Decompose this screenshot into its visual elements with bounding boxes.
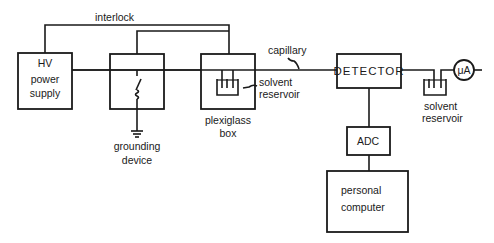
interlock-wiring <box>45 25 229 54</box>
adc-box: ADC <box>347 127 390 155</box>
pc-label-1: personal <box>341 184 381 196</box>
ammeter: μA <box>454 60 482 80</box>
detector-box: DETECTOR <box>333 54 404 88</box>
ground-icon <box>131 131 143 137</box>
capillary-label: capillary <box>268 44 307 56</box>
plexiglass-label-1: plexiglass <box>205 114 251 126</box>
interlock-label: interlock <box>95 11 135 23</box>
solvent-out-label-1: solvent <box>424 100 457 112</box>
resistor-coil-icon <box>136 90 139 99</box>
plexiglass-box: plexiglass box <box>201 54 255 139</box>
capillary-pointer-icon <box>288 58 299 69</box>
switch-icon <box>136 79 141 90</box>
hv-label-2: power <box>31 73 60 85</box>
solvent-out-label-2: reservoir <box>422 112 463 124</box>
hv-power-supply-box: HV power supply <box>18 53 72 109</box>
diagram-canvas: interlock HV power supply grounding devi… <box>0 0 494 243</box>
electrode-line <box>441 70 454 88</box>
solvent-in-label-1: solvent <box>259 76 292 88</box>
interlock-line-inner <box>137 31 229 54</box>
personal-computer-box: personal computer <box>327 171 408 232</box>
pc-label-2: computer <box>341 201 385 213</box>
grounding-label-1: grounding <box>114 140 161 152</box>
grounding-label-2: device <box>122 154 153 166</box>
ammeter-label: μA <box>457 64 470 76</box>
hv-label-3: supply <box>30 87 61 99</box>
hv-label-1: HV <box>38 57 53 69</box>
adc-label: ADC <box>357 135 380 147</box>
plexiglass-label-2: box <box>220 127 238 139</box>
detector-label: DETECTOR <box>333 65 404 77</box>
solvent-reservoir-out-icon <box>424 79 446 95</box>
solvent-in-label-2: reservoir <box>259 88 300 100</box>
grounding-device-box: grounding device <box>72 54 201 166</box>
